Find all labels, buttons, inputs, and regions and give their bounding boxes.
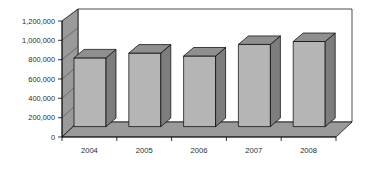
bar-side-face	[216, 48, 226, 127]
x-tick-label: 2004	[81, 146, 98, 155]
x-tick-label: 2008	[300, 146, 317, 155]
bar-2006	[184, 48, 226, 127]
y-tick-label: 800,000	[28, 55, 55, 64]
bar-front-face	[293, 42, 325, 127]
bar-side-face	[270, 36, 280, 127]
bar-chart-3d: 0 200,000 400,000 600,000 800,000 1,000,…	[0, 0, 365, 169]
bar-front-face	[238, 44, 270, 126]
bar-front-face	[129, 53, 161, 127]
y-tick-label: 0	[51, 133, 55, 142]
x-tick-label: 2006	[191, 146, 208, 155]
bar-side-face	[106, 49, 116, 126]
bar-side-face	[325, 33, 335, 127]
bar-front-face	[184, 56, 216, 127]
bar-side-face	[161, 45, 171, 127]
bar-front-face	[74, 58, 106, 127]
x-tick-label: 2005	[136, 146, 153, 155]
y-tick-label: 200,000	[28, 113, 55, 122]
y-tick-label: 1,200,000	[22, 17, 55, 26]
chart-canvas: 0 200,000 400,000 600,000 800,000 1,000,…	[0, 0, 365, 169]
y-tick-label: 400,000	[28, 94, 55, 103]
category-axis-ticks	[62, 137, 336, 141]
y-tick-label: 1,000,000	[22, 36, 55, 45]
category-axis-labels: 2004 2005 2006 2007 2008	[81, 146, 317, 155]
value-axis-ticks	[58, 21, 62, 137]
y-tick-label: 600,000	[28, 75, 55, 84]
value-axis-tick-labels: 0 200,000 400,000 600,000 800,000 1,000,…	[22, 17, 55, 142]
bar-2005	[129, 45, 171, 127]
bar-2004	[74, 49, 116, 126]
bar-2007	[238, 36, 280, 127]
bar-2008	[293, 33, 335, 127]
x-tick-label: 2007	[245, 146, 262, 155]
